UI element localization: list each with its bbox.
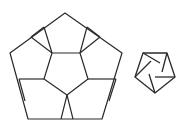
pinwheel-line <box>162 53 167 72</box>
large-pentagon-figure <box>10 13 122 119</box>
edge-line <box>61 95 67 119</box>
small-pentagon-figure <box>135 53 175 93</box>
inner-pentagon <box>44 53 88 95</box>
edge-line <box>31 37 52 53</box>
pinwheel-line <box>143 53 160 63</box>
edge-line <box>44 27 52 53</box>
edge-line <box>80 37 100 53</box>
pentagon-diagram <box>0 0 187 121</box>
small-outer-pentagon <box>135 53 175 93</box>
edge-line <box>87 27 100 37</box>
edge-line <box>80 27 87 53</box>
outer-pentagon <box>10 13 122 119</box>
edge-line <box>31 27 44 37</box>
edge-line <box>67 95 73 119</box>
